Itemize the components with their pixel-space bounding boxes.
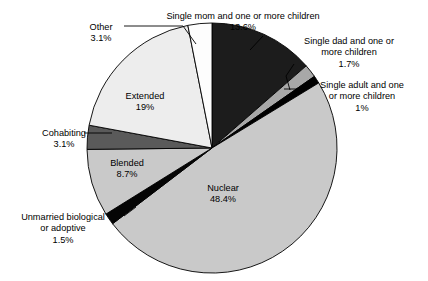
slice-label-unmarried-line2: or adoptive [2,223,124,234]
slice-label-other-name: Other [78,22,124,33]
slice-label-single-dad-line1: Single dad and one or [288,36,410,47]
slice-label-single-mom-value: 13.6% [162,22,324,33]
slice-label-single-adult-line2: or more children [302,91,422,102]
slice-label-unmarried-line1: Unmarried biological [2,212,124,223]
slice-label-cohabiting: Cohabiting 3.1% [26,128,102,151]
slice-label-single-mom-name: Single mom and one or more children [162,11,324,22]
slice-label-single-adult-value: 1% [302,103,422,114]
slice-label-nuclear-value: 48.4% [190,194,256,205]
slice-label-extended: Extended 19% [110,91,180,114]
pie-chart-figure: Other 3.1% Single mom and one or more ch… [0,0,428,281]
slice-label-unmarried-value: 1.5% [2,235,124,246]
slice-label-single-dad-value: 1.7% [288,59,410,70]
slice-label-nuclear: Nuclear 48.4% [190,183,256,206]
slice-label-single-mom: Single mom and one or more children 13.6… [162,11,324,34]
slice-label-blended: Blended 8.7% [96,158,158,181]
slice-label-cohabiting-value: 3.1% [26,139,102,150]
slice-label-cohabiting-name: Cohabiting [26,128,102,139]
slice-label-blended-value: 8.7% [96,169,158,180]
slice-label-single-adult: Single adult and one or more children 1% [302,80,422,114]
slice-label-single-dad: Single dad and one or more children 1.7% [288,36,410,70]
slice-label-other-value: 3.1% [78,33,124,44]
slice-label-unmarried: Unmarried biological or adoptive 1.5% [2,212,124,246]
slice-label-blended-name: Blended [96,158,158,169]
slice-label-other: Other 3.1% [78,22,124,45]
slice-label-single-dad-line2: more children [288,47,410,58]
slice-label-nuclear-name: Nuclear [190,183,256,194]
slice-label-single-adult-line1: Single adult and one [302,80,422,91]
slice-label-extended-value: 19% [110,102,180,113]
slice-label-extended-name: Extended [110,91,180,102]
